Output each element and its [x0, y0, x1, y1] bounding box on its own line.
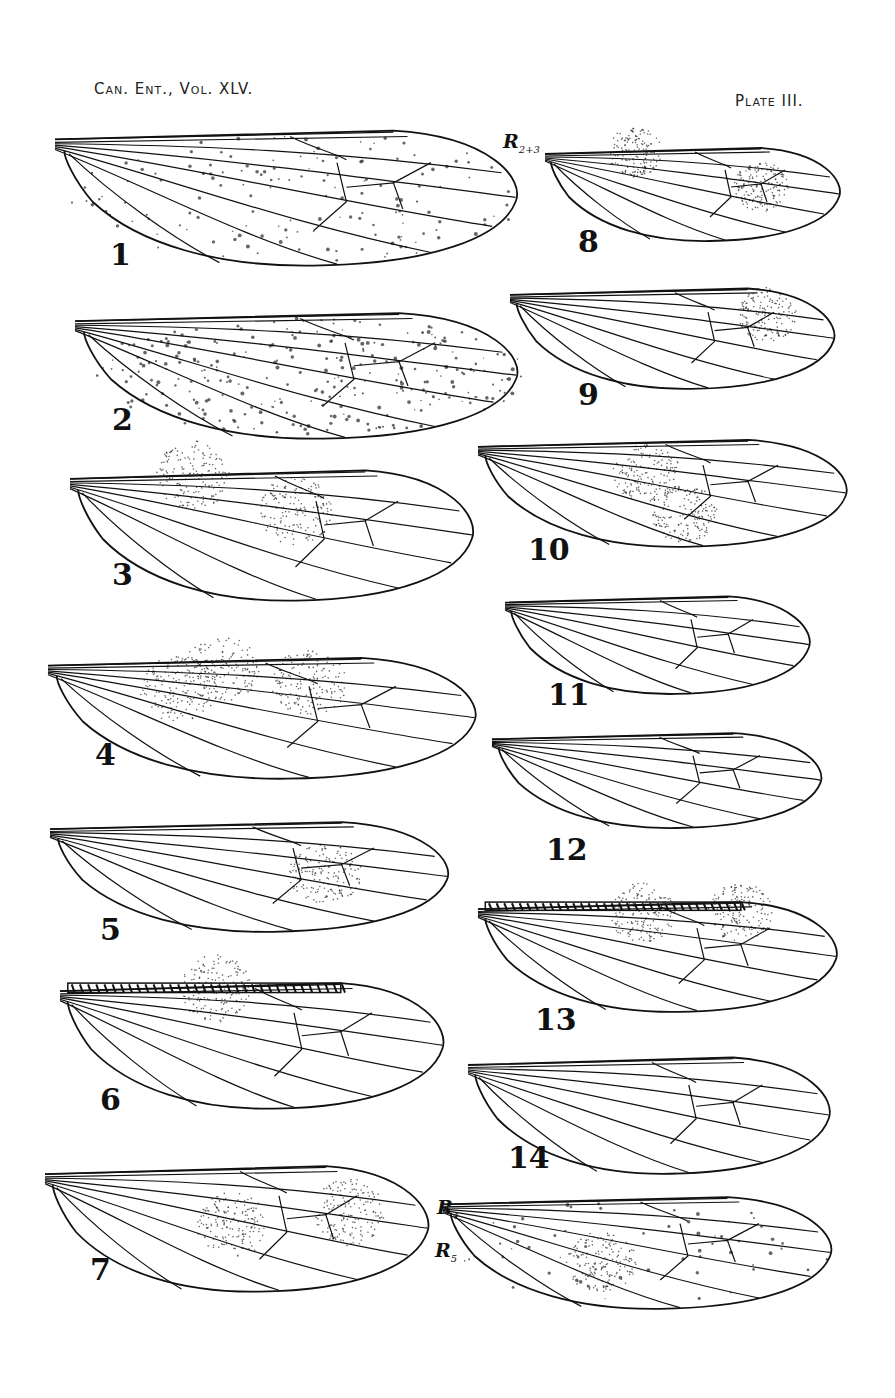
wing-drawing: [492, 727, 827, 829]
figure-number: 9: [578, 377, 599, 412]
figure-number: 4: [95, 737, 116, 772]
plate: Can. Ent., Vol. XLV. Plate III. 12345678…: [0, 0, 895, 1398]
journal-header: Can. Ent., Vol. XLV.: [94, 80, 253, 98]
wing-figure-9: [510, 282, 840, 390]
plate-number: Plate III.: [735, 92, 804, 110]
wing-drawing: [510, 282, 840, 390]
wing-drawing: [478, 895, 843, 1013]
figure-number: 1: [110, 237, 131, 272]
figure-number: 7: [90, 1252, 111, 1287]
vein-label-r5: R5: [435, 1239, 457, 1264]
wing-figure-13: [478, 895, 843, 1013]
wing-drawing: [443, 1190, 838, 1310]
figure-number: 11: [548, 677, 590, 712]
wing-figure-10: [478, 433, 853, 548]
wing-figure-12: [492, 727, 827, 829]
figure-number: 8: [578, 224, 599, 259]
vein-label-r23: R2+3: [503, 130, 540, 155]
figure-number: 14: [508, 1140, 550, 1175]
vein-label-r4: R4: [437, 1196, 459, 1221]
wing-drawing: [478, 433, 853, 548]
figure-number: 3: [112, 557, 133, 592]
figure-number: 12: [546, 832, 588, 867]
figure-number: 6: [100, 1082, 121, 1117]
figure-number: 5: [100, 912, 121, 947]
wing-drawing: [75, 305, 525, 440]
figure-number: 10: [528, 532, 570, 567]
figure-number: 2: [112, 402, 133, 437]
figure-number: 13: [535, 1002, 577, 1037]
wing-figure-unlabeled: [443, 1190, 838, 1310]
wing-figure-2: [75, 305, 525, 440]
